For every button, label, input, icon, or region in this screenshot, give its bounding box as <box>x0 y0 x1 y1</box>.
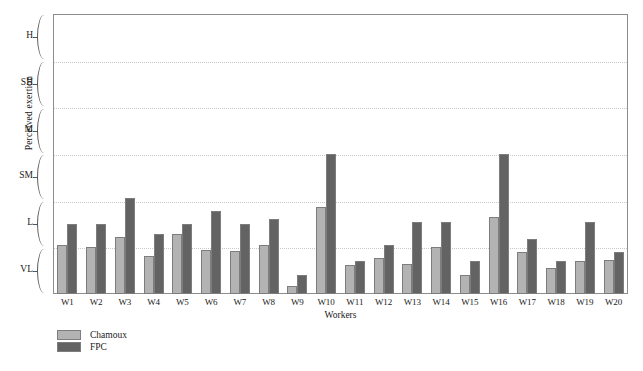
bar-group <box>402 14 422 294</box>
x-axis-tick-w3: W3 <box>111 297 140 307</box>
bar-group <box>144 14 164 294</box>
bar-chamoux-w5[interactable] <box>172 234 182 294</box>
x-axis-tick-w1: W1 <box>53 297 82 307</box>
x-axis-tick-w2: W2 <box>82 297 111 307</box>
legend-item-chamoux[interactable]: Chamoux <box>57 330 127 340</box>
bar-group <box>316 14 336 294</box>
bar-fpc-w10[interactable] <box>326 154 336 294</box>
bar-fpc-w17[interactable] <box>527 239 537 294</box>
y-axis-tick-label: SH <box>21 77 33 87</box>
bar-fpc-w14[interactable] <box>441 222 451 294</box>
x-axis-tick-w7: W7 <box>226 297 255 307</box>
bar-chamoux-w12[interactable] <box>374 258 384 294</box>
bar-chamoux-w19[interactable] <box>575 261 585 294</box>
bar-fpc-w8[interactable] <box>269 219 279 294</box>
x-axis-tick-w12: W12 <box>369 297 398 307</box>
x-axis-tick-w10: W10 <box>312 297 341 307</box>
bar-chamoux-w3[interactable] <box>115 237 125 294</box>
bar-fpc-w18[interactable] <box>556 261 566 294</box>
bar-fpc-w20[interactable] <box>614 252 624 294</box>
bar-group <box>546 14 566 294</box>
bar-chamoux-w11[interactable] <box>345 265 355 294</box>
x-axis-tick-w11: W11 <box>341 297 370 307</box>
bar-group <box>575 14 595 294</box>
x-axis-tick-w4: W4 <box>139 297 168 307</box>
bar-fpc-w6[interactable] <box>211 211 221 294</box>
x-axis-tick-w14: W14 <box>427 297 456 307</box>
x-axis-tick-w8: W8 <box>254 297 283 307</box>
chart-legend: ChamouxFPC <box>57 330 127 354</box>
x-axis-tick-w16: W16 <box>484 297 513 307</box>
y-axis-tick-label: SM <box>19 170 33 180</box>
bar-group <box>489 14 509 294</box>
bar-chamoux-w17[interactable] <box>517 252 527 294</box>
bar-group <box>374 14 394 294</box>
bar-group <box>57 14 77 294</box>
x-axis-tick-w13: W13 <box>398 297 427 307</box>
x-axis-tick-w9: W9 <box>283 297 312 307</box>
bar-group <box>201 14 221 294</box>
curly-brace-icon <box>37 109 45 153</box>
y-axis-tick-label: VL <box>20 264 33 274</box>
bar-group <box>604 14 624 294</box>
x-axis-tick-w18: W18 <box>542 297 571 307</box>
bar-fpc-w7[interactable] <box>240 224 250 294</box>
bar-chamoux-w13[interactable] <box>402 264 412 294</box>
x-axis-tick-w19: W19 <box>571 297 600 307</box>
bar-fpc-w15[interactable] <box>470 261 480 294</box>
bar-fpc-w13[interactable] <box>412 222 422 294</box>
y-axis-tick-label: H <box>26 30 33 40</box>
bar-group <box>287 14 307 294</box>
bar-chamoux-w9[interactable] <box>287 286 297 294</box>
y-axis-tick-label: L <box>27 217 33 227</box>
bar-group <box>230 14 250 294</box>
bar-group <box>86 14 106 294</box>
bar-chamoux-w15[interactable] <box>460 275 470 294</box>
bar-chamoux-w8[interactable] <box>259 245 269 294</box>
x-axis-tick-w20: W20 <box>599 297 628 307</box>
x-axis-tick-w6: W6 <box>197 297 226 307</box>
curly-brace-icon <box>37 62 45 106</box>
x-axis-title: Workers <box>53 310 628 320</box>
x-axis-tick-w5: W5 <box>168 297 197 307</box>
bar-fpc-w19[interactable] <box>585 222 595 294</box>
bar-chamoux-w20[interactable] <box>604 260 614 294</box>
bar-chamoux-w18[interactable] <box>546 268 556 294</box>
bars-layer <box>53 14 628 294</box>
bar-chamoux-w16[interactable] <box>489 217 499 294</box>
bar-fpc-w11[interactable] <box>355 261 365 294</box>
bar-group <box>345 14 365 294</box>
x-axis-tick-w17: W17 <box>513 297 542 307</box>
x-axis-tick-w15: W15 <box>456 297 485 307</box>
bar-fpc-w5[interactable] <box>182 224 192 294</box>
bar-chamoux-w14[interactable] <box>431 247 441 294</box>
y-axis-title: Perceived exertion <box>24 38 34 188</box>
legend-swatch <box>57 330 81 340</box>
bar-chamoux-w2[interactable] <box>86 247 96 294</box>
bar-group <box>172 14 192 294</box>
curly-brace-icon <box>37 202 45 246</box>
bar-group <box>259 14 279 294</box>
legend-item-fpc[interactable]: FPC <box>57 342 127 352</box>
bar-chamoux-w6[interactable] <box>201 250 211 294</box>
bar-group <box>517 14 537 294</box>
bar-fpc-w1[interactable] <box>67 224 77 294</box>
y-axis-tick-label: M <box>25 124 33 134</box>
bar-fpc-w16[interactable] <box>499 154 509 294</box>
chart-container: Perceived exertion VLLSMMSHH W1W2W3W4W5W… <box>0 0 643 371</box>
legend-label: FPC <box>90 342 107 352</box>
bar-fpc-w4[interactable] <box>154 234 164 294</box>
bar-fpc-w3[interactable] <box>125 198 135 294</box>
curly-brace-icon <box>37 155 45 199</box>
bar-group <box>431 14 451 294</box>
bar-group <box>115 14 135 294</box>
bar-fpc-w2[interactable] <box>96 224 106 294</box>
bar-chamoux-w10[interactable] <box>316 207 326 294</box>
bar-fpc-w12[interactable] <box>384 245 394 294</box>
bar-fpc-w9[interactable] <box>297 275 307 294</box>
legend-swatch <box>57 342 81 352</box>
bar-chamoux-w7[interactable] <box>230 251 240 294</box>
bar-chamoux-w4[interactable] <box>144 256 154 294</box>
bar-chamoux-w1[interactable] <box>57 245 67 294</box>
legend-label: Chamoux <box>90 330 127 340</box>
